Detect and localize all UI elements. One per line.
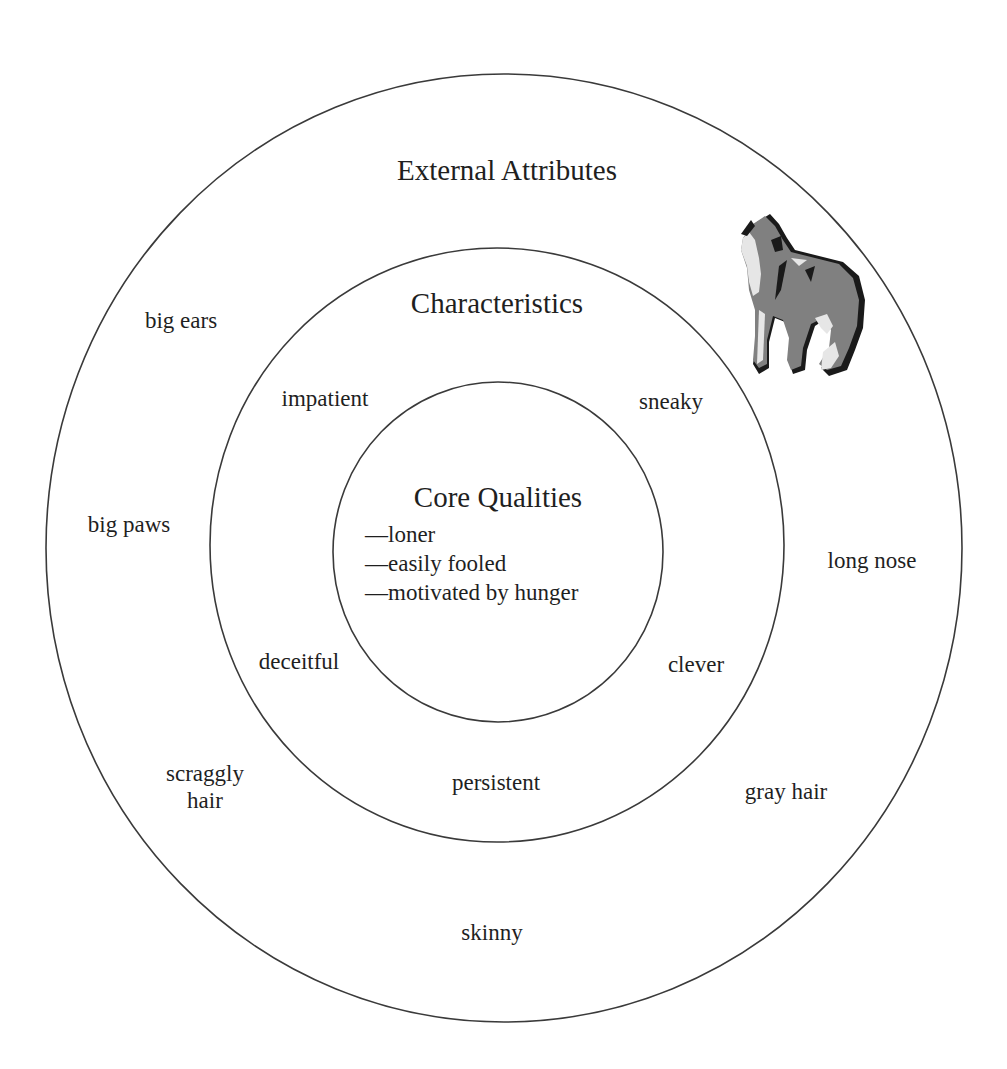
core-quality-item: —loner bbox=[365, 520, 578, 549]
external-attributes-title: External Attributes bbox=[397, 155, 617, 187]
core-qualities-title: Core Qualities bbox=[414, 482, 582, 514]
core-qualities-list: —loner —easily fooled —motivated by hung… bbox=[365, 520, 578, 607]
external-attribute-item: skinny bbox=[461, 920, 522, 945]
characteristic-item: persistent bbox=[452, 770, 540, 795]
core-quality-item: —easily fooled bbox=[365, 549, 578, 578]
characteristics-title: Characteristics bbox=[411, 288, 583, 320]
howling-coyote-icon bbox=[735, 210, 870, 380]
external-attribute-item: big paws bbox=[88, 512, 170, 537]
characteristic-item: impatient bbox=[282, 386, 369, 411]
characteristic-item: deceitful bbox=[259, 649, 339, 674]
external-attribute-item: long nose bbox=[828, 548, 917, 573]
characteristic-item: sneaky bbox=[639, 389, 703, 414]
concentric-circle-diagram: External Attributes Characteristics big … bbox=[0, 0, 1007, 1069]
external-attribute-item: gray hair bbox=[745, 779, 827, 804]
external-attribute-item: scraggly hair bbox=[150, 760, 260, 814]
core-quality-item: —motivated by hunger bbox=[365, 578, 578, 607]
characteristic-item: clever bbox=[668, 652, 724, 677]
external-attribute-item: big ears bbox=[145, 308, 217, 333]
